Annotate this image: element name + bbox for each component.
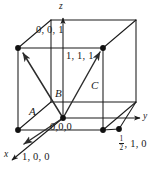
vector-label-C: C	[91, 80, 98, 91]
point-label-100: 1, 0, 0	[22, 152, 50, 163]
axis-label-x: x	[4, 150, 8, 160]
point-label-half-1-0: 12, 1, 0	[119, 135, 147, 151]
unit-cell-figure: z y x 0, 0, 1 1, 1, 1 0,0,0 1, 0, 0 12, …	[0, 0, 156, 170]
vertex-dot-100	[15, 127, 21, 133]
cube-edge-depth-top-right	[103, 20, 136, 48]
point-label-111: 1, 1, 1	[66, 51, 94, 62]
vector-label-A: A	[29, 106, 36, 117]
point-label-half-rest: , 1, 0	[125, 138, 147, 149]
fraction-one-half: 12	[119, 135, 124, 151]
vertex-dot-front-bottom-right	[100, 127, 106, 133]
fraction-denominator: 2	[119, 144, 124, 152]
vertex-dot-001	[15, 45, 21, 51]
point-label-001: 0, 0, 1	[36, 25, 64, 36]
vertex-dot-half-1-0	[116, 126, 122, 132]
cube-edge-depth-bottom-right	[103, 102, 136, 130]
axis-label-y: y	[143, 112, 147, 122]
axis-label-z: z	[59, 2, 63, 12]
vector-label-B: B	[55, 88, 62, 99]
line-to-half-point	[119, 102, 136, 129]
point-label-origin: 0,0,0	[50, 122, 72, 133]
vertex-dot-111	[100, 45, 106, 51]
